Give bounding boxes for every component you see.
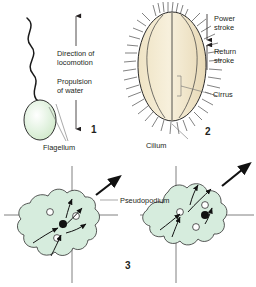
panel-2-number: 2 [205,126,211,137]
movement-direction-arrow-left [96,178,118,195]
cilium-panel: Power stroke Return stroke Cirrus Cilium… [123,2,236,150]
direction-label-line1: Direction of [57,49,95,58]
pseudopodium-panel: Pseudopodium 3 [4,165,254,283]
vacuole-left-1 [47,209,54,216]
panel-3-number: 3 [125,260,131,271]
panel-1-number: 1 [91,124,97,135]
propulsion-label-line2: of water [57,86,84,95]
power-stroke-label-line2: stroke [214,23,234,32]
amoeba-stage-left [4,166,118,283]
amoeba-stage-right [140,165,254,283]
cilium-leader-line [172,124,188,139]
vacuole-left-2 [73,213,80,220]
flagellum-label: Flagellum [43,143,75,152]
flagellum-shape [27,18,47,108]
protozoan-locomotion-figure: Direction of locomotion Propulsion of wa… [0,0,256,287]
cilium-label: Cilium [146,141,167,150]
propulsion-label-line1: Propulsion [57,77,92,86]
amoeba-outline-left [17,189,99,255]
direction-label-line2: locomotion [57,58,93,67]
power-stroke-label-line1: Power [214,14,235,23]
pseudopodium-label: Pseudopodium [120,196,169,205]
movement-direction-arrow-right [222,165,248,186]
flagellate-cell-body [24,100,56,140]
cirrus-label: Cirrus [213,90,233,99]
vacuole-right-1 [202,202,209,209]
flagellum-panel: Direction of locomotion Propulsion of wa… [24,16,97,152]
flagellum-leader-line-b [56,104,68,141]
amoeba-outline-right [143,184,227,245]
vacuole-right-3 [193,224,200,231]
return-stroke-label-line1: Return [214,47,236,56]
return-stroke-label-line2: stroke [214,56,234,65]
